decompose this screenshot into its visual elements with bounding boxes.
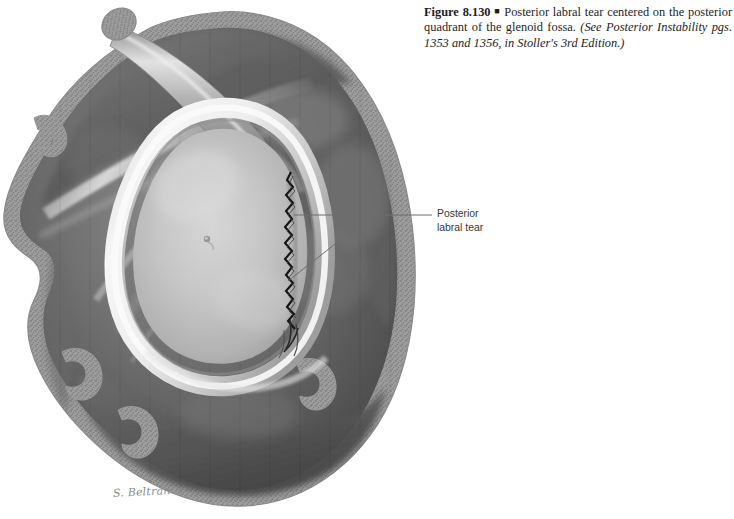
- glenoid-fossa-illustration: [0, 0, 734, 519]
- figure-caption: Figure 8.130 ■ Posterior labral tear cen…: [424, 4, 732, 51]
- annotation-posterior-labral-tear: Posterior labral tear: [437, 207, 483, 235]
- figure-page: Figure 8.130 ■ Posterior labral tear cen…: [0, 0, 734, 519]
- annotation-line-1: Posterior: [437, 207, 483, 221]
- figure-number: Figure 8.130: [424, 5, 491, 19]
- annotation-line-2: labral tear: [437, 221, 483, 235]
